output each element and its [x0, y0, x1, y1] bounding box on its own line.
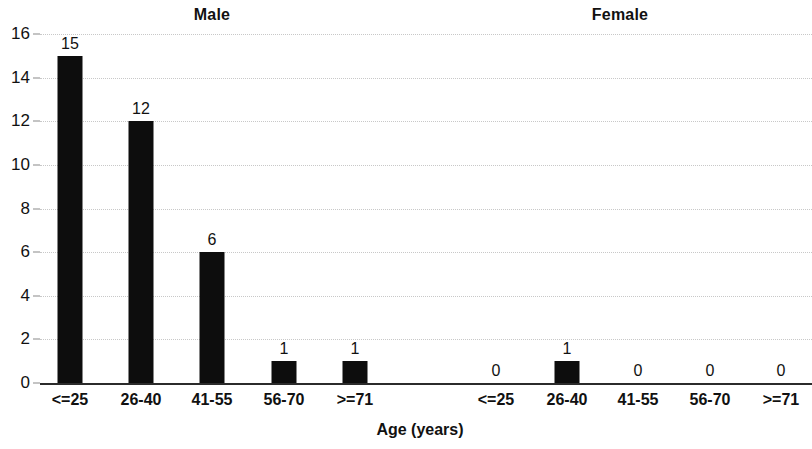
panel-title-female: Female	[592, 6, 648, 24]
bar	[129, 121, 154, 383]
y-axis-tick-label: 12	[0, 111, 30, 131]
gridline	[40, 78, 812, 79]
bar-value-label: 0	[634, 362, 643, 380]
bar	[58, 56, 83, 383]
bar	[200, 252, 225, 383]
y-axis-tick-mark	[33, 164, 40, 165]
y-axis-tick-mark	[33, 339, 40, 340]
y-axis-tick-mark	[33, 77, 40, 78]
x-axis-tick-label: >=71	[337, 391, 373, 409]
bar	[272, 361, 297, 383]
bar-value-label: 6	[208, 231, 217, 249]
y-axis-tick-label: 14	[0, 68, 30, 88]
bar-value-label: 0	[492, 362, 501, 380]
y-axis-tick-label: 0	[0, 373, 30, 393]
gridline	[40, 209, 812, 210]
gridline	[40, 252, 812, 253]
x-axis-tick-label: 41-55	[618, 391, 659, 409]
x-axis-tick-label: <=25	[478, 391, 514, 409]
gridline	[40, 34, 812, 35]
bar-value-label: 15	[61, 35, 79, 53]
y-axis-tick-label: 4	[0, 286, 30, 306]
x-axis-tick-label: >=71	[763, 391, 799, 409]
x-axis-tick-label: <=25	[52, 391, 88, 409]
x-axis-tick-label: 56-70	[690, 391, 731, 409]
plot-area: 151261101000	[40, 34, 812, 383]
bar-value-label: 1	[563, 340, 572, 358]
bar-value-label: 1	[280, 340, 289, 358]
y-axis-tick-mark	[33, 295, 40, 296]
gridline	[40, 121, 812, 122]
x-axis-tick-label: 26-40	[121, 391, 162, 409]
y-axis-tick-mark	[33, 34, 40, 35]
y-axis: 1614121086420	[0, 0, 40, 449]
panel-title-male: Male	[194, 6, 230, 24]
gridline	[40, 339, 812, 340]
x-axis-tick-label: 56-70	[264, 391, 305, 409]
bar	[343, 361, 368, 383]
gridline	[40, 165, 812, 166]
y-axis-tick-label: 16	[0, 24, 30, 44]
x-axis-tick-label: 26-40	[547, 391, 588, 409]
bar-value-label: 0	[706, 362, 715, 380]
x-axis-title: Age (years)	[376, 421, 463, 439]
y-axis-tick-mark	[33, 208, 40, 209]
y-axis-tick-mark	[33, 121, 40, 122]
y-axis-tick-mark	[33, 252, 40, 253]
bar	[555, 361, 580, 383]
bar-value-label: 1	[351, 340, 360, 358]
bar-chart-figure: Male Female 1614121086420 151261101000 <…	[0, 0, 812, 449]
x-axis-tick-label: 41-55	[192, 391, 233, 409]
y-axis-tick-label: 6	[0, 242, 30, 262]
y-axis-tick-mark	[33, 383, 40, 384]
bar-value-label: 12	[132, 100, 150, 118]
gridline	[40, 296, 812, 297]
y-axis-tick-label: 2	[0, 329, 30, 349]
x-axis-baseline	[40, 383, 812, 385]
y-axis-tick-label: 10	[0, 155, 30, 175]
bar-value-label: 0	[777, 362, 786, 380]
y-axis-tick-label: 8	[0, 199, 30, 219]
